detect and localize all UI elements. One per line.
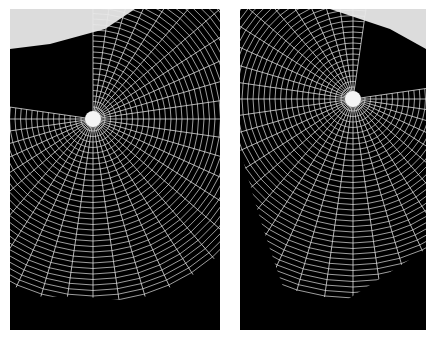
left-web-graphic bbox=[10, 9, 220, 330]
right-web-graphic bbox=[240, 9, 426, 330]
right-web-photo bbox=[240, 9, 426, 330]
left-web-photo bbox=[10, 9, 220, 330]
